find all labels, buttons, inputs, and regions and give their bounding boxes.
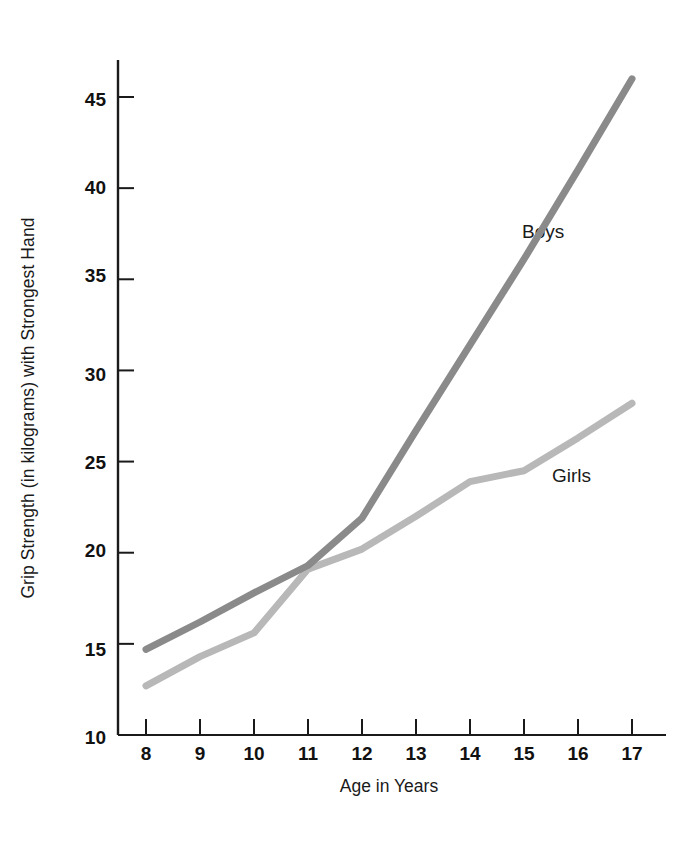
chart-figure: Grip Strength (in kilograms) with Strong… <box>0 0 692 848</box>
data-line-girls <box>146 403 632 686</box>
plot-area <box>0 0 692 848</box>
x-tick-marks <box>146 719 632 735</box>
y-tick-marks <box>118 97 134 644</box>
data-line-boys <box>146 79 632 650</box>
